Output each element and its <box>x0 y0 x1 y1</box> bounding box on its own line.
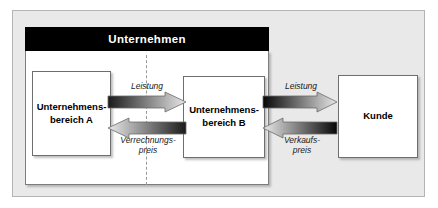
arrow-leistung-internal-right <box>108 92 186 112</box>
diagram-canvas: Unternehmen Unternehmens- bereich A Unte… <box>0 0 438 208</box>
box-kunde-label: Kunde <box>360 110 396 123</box>
company-title-bar: Unternehmen <box>25 27 269 51</box>
box-unternehmensbereich-a: Unternehmens- bereich A <box>32 71 111 156</box>
box-unternehmensbereich-b: Unternehmens- bereich B <box>183 76 265 158</box>
box-a-label: Unternehmens- bereich A <box>34 101 110 127</box>
box-b-label: Unternehmens- bereich B <box>186 104 262 130</box>
label-leistung-external: Leistung <box>268 81 334 91</box>
label-verkaufspreis: Verkaufs- preis <box>270 135 334 155</box>
arrow-leistung-external-right <box>263 92 337 112</box>
box-kunde: Kunde <box>338 75 418 158</box>
label-leistung-internal: Leistung <box>112 81 182 91</box>
label-verrechnungspreis: Verrechnungs- preis <box>108 135 188 155</box>
